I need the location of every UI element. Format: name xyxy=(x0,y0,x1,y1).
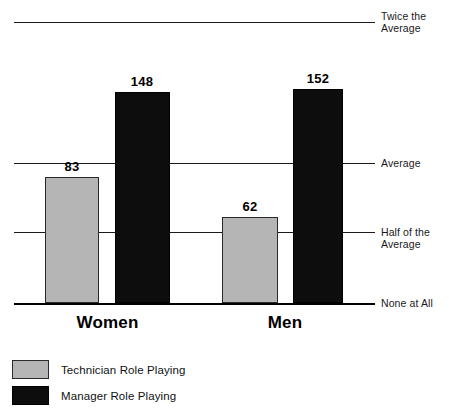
axis-label-average: Average xyxy=(381,157,421,169)
bar-men-technician xyxy=(222,217,278,303)
axis-label-none-at-all: None at All xyxy=(381,297,433,309)
value-label-women-manager: 148 xyxy=(112,74,172,89)
axis-label-twice-the-average: Twice the Average xyxy=(381,10,426,34)
group-label-women: Women xyxy=(45,313,170,333)
axis-label-half-of-the-average: Half of the Average xyxy=(381,226,430,250)
legend-swatch-technician xyxy=(12,360,49,379)
bar-women-manager xyxy=(115,92,170,303)
bar-women-technician xyxy=(45,177,99,303)
value-label-women-technician: 83 xyxy=(42,159,102,174)
value-label-men-technician: 62 xyxy=(220,199,280,214)
reference-line-none-at-all xyxy=(14,303,375,305)
bar-men-manager xyxy=(293,89,343,303)
legend-label-manager: Manager Role Playing xyxy=(61,390,176,402)
legend-label-technician: Technician Role Playing xyxy=(61,364,185,376)
group-label-men: Men xyxy=(225,313,345,333)
value-label-men-manager: 152 xyxy=(288,71,348,86)
bar-chart: Twice the Average Average Half of the Av… xyxy=(0,0,449,416)
reference-line-twice-the-average xyxy=(14,22,375,23)
legend-swatch-manager xyxy=(12,386,49,405)
